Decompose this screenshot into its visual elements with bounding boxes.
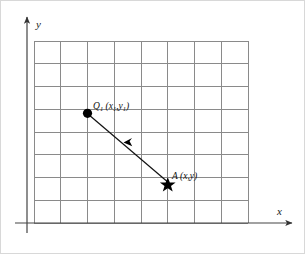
point-q1-marker-icon bbox=[83, 109, 92, 118]
vector-a-to-q1 bbox=[89, 115, 168, 183]
point-q1-label: Q1 (x1,y1) bbox=[93, 101, 129, 112]
grid-lines bbox=[34, 41, 248, 223]
q1-paren-close: ) bbox=[125, 101, 129, 112]
coordinate-plane-figure: y x Q1 (x1,y1) A (x,y) bbox=[0, 0, 305, 254]
point-a-label: A (x,y) bbox=[171, 171, 197, 182]
figure-canvas: y x Q1 (x1,y1) A (x,y) bbox=[1, 1, 305, 254]
y-axis-label: y bbox=[35, 18, 41, 30]
x-axis-label: x bbox=[276, 205, 282, 217]
vector-segment bbox=[89, 115, 168, 183]
a-coords: (x,y) bbox=[178, 171, 198, 182]
